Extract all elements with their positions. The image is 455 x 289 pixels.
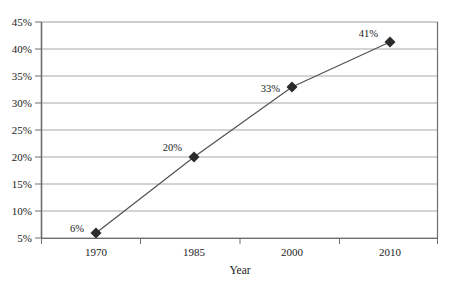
y-label-45: 45% [12, 16, 32, 28]
y-label-20: 20% [12, 151, 32, 163]
chart-canvas: 45% 40% 35% 30% 25% 20% 15% 10% 5% 1970 … [0, 0, 455, 289]
data-label-1970: 6% [70, 223, 84, 234]
x-axis-title: Year [229, 264, 250, 276]
x-label-2000: 2000 [281, 246, 304, 258]
y-label-15: 15% [12, 178, 32, 190]
data-label-2000: 33% [261, 83, 281, 94]
y-label-40: 40% [12, 43, 32, 55]
y-label-5: 5% [17, 232, 32, 244]
data-label-1985: 20% [163, 142, 183, 153]
y-label-25: 25% [12, 124, 32, 136]
y-axis-labels: 45% 40% 35% 30% 25% 20% 15% 10% 5% [12, 16, 32, 244]
x-label-1970: 1970 [85, 246, 108, 258]
x-label-1985: 1985 [183, 246, 206, 258]
y-label-35: 35% [12, 70, 32, 82]
x-label-2010: 2010 [379, 246, 402, 258]
data-label-2010: 41% [359, 28, 379, 39]
y-label-30: 30% [12, 97, 32, 109]
line-chart: 45% 40% 35% 30% 25% 20% 15% 10% 5% 1970 … [0, 0, 455, 289]
y-label-10: 10% [12, 205, 32, 217]
